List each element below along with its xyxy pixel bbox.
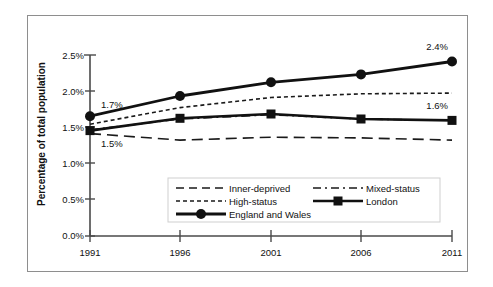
legend-label-inner-deprived: Inner-deprived — [229, 183, 290, 194]
y-tick-label-1-0: 1.0% — [62, 158, 84, 169]
legend-label-london: London — [366, 196, 398, 207]
legend-label-england-and-wales: England and Wales — [229, 209, 311, 220]
legend-marker-london — [334, 197, 343, 206]
annotation-1991-london: 1.5% — [101, 138, 123, 149]
legend-label-high-status: High-status — [229, 196, 277, 207]
x-tick-label-2011: 2011 — [442, 247, 462, 258]
legend-marker-england-and-wales — [196, 209, 206, 219]
y-axis-title: Percentage of total population — [36, 62, 47, 206]
chart-frame: Percentage of total population 2.5% 2.0%… — [27, 15, 468, 272]
chart-figure: Percentage of total population 2.5% 2.0%… — [0, 0, 493, 287]
x-tick-label-1991: 1991 — [79, 247, 100, 258]
series-line-england-and-wales — [90, 62, 452, 117]
x-tick-label-1996: 1996 — [169, 247, 190, 258]
annotation-1991-england-wales: 1.7% — [101, 99, 123, 110]
annotation-2011-england-wales: 2.4% — [426, 41, 448, 52]
y-tick-label-2-5: 2.5% — [62, 50, 84, 61]
y-tick-label-0-5: 0.5% — [62, 194, 84, 205]
x-tick-label-2001: 2001 — [260, 247, 281, 258]
series-line-inner-deprived — [90, 134, 452, 141]
y-tick-label-0-0: 0.0% — [62, 230, 84, 241]
y-tick-label-2-0: 2.0% — [62, 86, 84, 97]
legend-label-mixed-status: Mixed-status — [366, 183, 420, 194]
x-tick-label-2006: 2006 — [350, 247, 371, 258]
y-tick-label-1-5: 1.5% — [62, 122, 84, 133]
line-chart-svg: Percentage of total population 2.5% 2.0%… — [28, 16, 466, 270]
chart-legend: Inner-deprived Mixed-status High-status … — [168, 178, 440, 222]
annotation-2011-london: 1.6% — [426, 100, 448, 111]
